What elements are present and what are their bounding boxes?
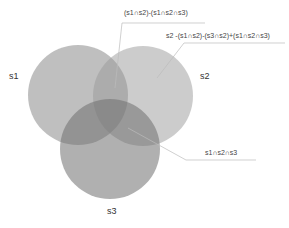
label-s1: s1 xyxy=(9,71,19,81)
annotation-s1-s2-only: (s1∩s2)-(s1∩s2∩s3) xyxy=(124,9,188,16)
annotation-s2-only: s2 -(s1∩s2)-(s3∩s2)+(s1∩s2∩s3) xyxy=(166,32,270,39)
annotation-all-three: s1∩s2∩s3 xyxy=(205,149,237,156)
label-s3: s3 xyxy=(107,206,117,216)
circle-s3 xyxy=(60,99,160,199)
label-s2: s2 xyxy=(200,71,210,81)
